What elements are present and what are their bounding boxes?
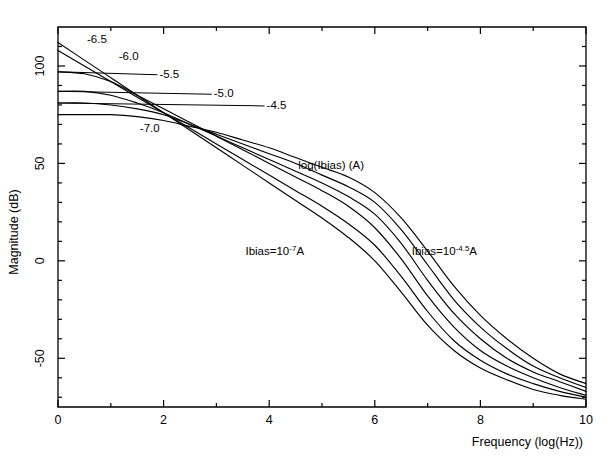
parameter-title: log(Ibias) (A) — [298, 159, 364, 171]
axis-frame-path — [58, 27, 586, 407]
curve-labels-group: -6.5-6.0-5.5-5.0-4.5-7.0 — [87, 33, 286, 135]
label-6.0: -6.0 — [119, 50, 139, 62]
curve-series — [58, 91, 586, 391]
y-axis-title: Magnitude (dB) — [7, 189, 21, 274]
x-axis-title: Frequency (log(Hz)) — [472, 435, 583, 449]
label-7.0: -7.0 — [140, 122, 160, 134]
y-tick-label: 50 — [33, 156, 47, 170]
x-tick-label: 0 — [55, 413, 62, 427]
x-tick-label: 8 — [477, 413, 484, 427]
curve-series — [58, 72, 586, 395]
chart-annotations-group: log(Ibias) (A)Ibias=10-7AIbias=10-4.5A — [245, 159, 477, 257]
y-tick-label: 100 — [33, 56, 47, 77]
plot-frame — [58, 27, 586, 407]
curve-series — [58, 43, 586, 400]
label-4.5: -4.5 — [267, 99, 287, 111]
bode-magnitude-plot: 0246810 100500-50 -6.5-6.0-5.5-5.0-4.5-7… — [0, 0, 610, 461]
chart-canvas: 0246810 100500-50 -6.5-6.0-5.5-5.0-4.5-7… — [0, 0, 610, 461]
label-5.5: -5.5 — [159, 68, 179, 80]
y-tick-label: -50 — [33, 349, 47, 367]
ibias-low: Ibias=10-7A — [245, 244, 304, 258]
curve-series-group — [58, 43, 586, 400]
y-axis-tick-labels: 100500-50 — [33, 56, 47, 368]
y-tick-label: 0 — [33, 257, 47, 264]
x-tick-label: 2 — [160, 413, 167, 427]
y-axis-ticks — [58, 46, 586, 397]
x-tick-label: 4 — [266, 413, 273, 427]
label-5.0: -5.0 — [214, 87, 234, 99]
curve-series — [58, 103, 586, 388]
x-tick-label: 6 — [371, 413, 378, 427]
x-axis-ticks — [58, 27, 586, 407]
curve-series — [58, 115, 586, 384]
x-axis-tick-labels: 0246810 — [55, 413, 593, 427]
label-6.5: -6.5 — [87, 33, 107, 45]
ibias-high: Ibias=10-4.5A — [412, 244, 478, 258]
x-tick-label: 10 — [579, 413, 593, 427]
